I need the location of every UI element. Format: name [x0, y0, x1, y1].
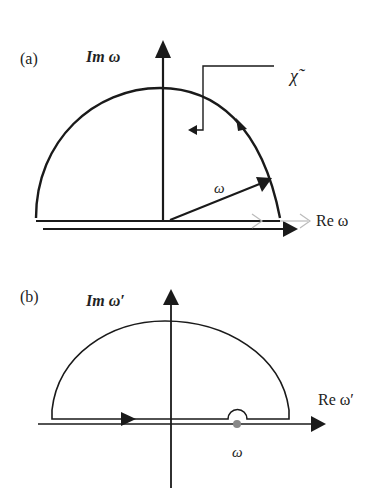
pole-dot — [233, 420, 241, 428]
im-axis-arrow-icon — [163, 289, 179, 305]
im-axis-label-b: Im ω′ — [85, 292, 125, 309]
contour-arc-a — [36, 88, 280, 218]
chi-label: χ̃ — [288, 66, 306, 86]
contour-diagram: (a) Im ω Re ω ω χ̃ (b) Im ω′ — [0, 0, 381, 488]
panel-b-label: (b) — [20, 288, 39, 306]
im-axis-arrow-icon — [155, 40, 171, 58]
re-axis-label-b: Re ω′ — [318, 391, 354, 408]
real-axis-arrow-icon — [283, 221, 298, 237]
panel-a-label: (a) — [20, 50, 38, 68]
arc-direction-arrow-icon — [236, 118, 247, 131]
panel-b: (b) Im ω′ ω Re ω′ — [20, 288, 354, 488]
omega-label-a: ω — [214, 180, 225, 196]
omega-label-b: ω — [232, 444, 243, 460]
im-axis-label-a: Im ω — [85, 48, 120, 65]
real-axis-arrow-icon — [311, 416, 326, 432]
panel-a: (a) Im ω Re ω ω χ̃ — [20, 40, 348, 237]
chi-pointer-arrow-icon — [188, 125, 197, 135]
re-axis-label-a: Re ω — [316, 212, 348, 229]
